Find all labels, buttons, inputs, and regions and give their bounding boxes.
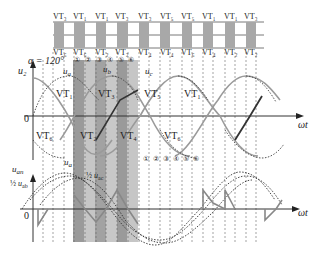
gating-strip <box>53 22 264 48</box>
half-uab-label: ½ uab <box>10 179 28 189</box>
svg-text:VT₃: VT₃ <box>53 12 67 21</box>
svg-text:④: ④ <box>173 155 179 163</box>
svg-text:③: ③ <box>163 155 169 163</box>
conduction-label-vt2: VT₂ <box>80 130 97 141</box>
svg-text:⑤: ⑤ <box>183 155 189 163</box>
svg-text:VT₃: VT₃ <box>115 12 129 21</box>
upper-x-label: ωt <box>298 119 308 130</box>
interval-markers-bottom: ① ② ③ ④ ⑤ ⑥ <box>143 155 199 163</box>
svg-text:⑥: ⑥ <box>128 56 134 64</box>
svg-text:VT₆: VT₆ <box>73 48 87 57</box>
waveform-diagram: α = 120° u₂ 0 ωt ua ub uc VT₁ VT₃ VT₅ VT… <box>0 0 321 259</box>
svg-text:VT₆: VT₆ <box>53 48 67 57</box>
svg-text:①: ① <box>74 56 80 64</box>
svg-text:VT₂: VT₂ <box>224 48 238 57</box>
conduction-label-vt6: VT₆ <box>36 130 53 141</box>
gating-strip-lower-labels: VT₆ VT₆ VT₂ VT₂ VT₄ VT₄ VT₆ VT₄ VT₂ VT₂ <box>53 48 258 57</box>
lower-phase-label-ua: ua <box>64 157 73 169</box>
lower-x-label: ωt <box>298 207 308 218</box>
upper-y-label: u₂ <box>18 65 27 76</box>
svg-text:VT₄: VT₄ <box>202 48 216 57</box>
svg-text:VT₅: VT₅ <box>181 12 195 21</box>
gating-strip-upper-labels: VT₃ VT₁ VT₁ VT₃ VT₃ VT₅ VT₅ VT₁ VT₁ VT₃ <box>53 12 258 21</box>
conduction-label-vt1: VT₁ <box>56 88 73 99</box>
svg-text:①: ① <box>143 155 149 163</box>
svg-text:VT₂: VT₂ <box>115 48 129 57</box>
lower-y-arrow-icon <box>30 174 36 182</box>
conduction-label-vt4: VT₄ <box>120 130 137 141</box>
upper-zero-label: 0 <box>24 113 29 124</box>
svg-text:VT₁: VT₁ <box>73 12 87 21</box>
svg-text:VT₅: VT₅ <box>160 12 174 21</box>
conduction-label-vt3: VT₃ <box>98 88 115 99</box>
svg-text:VT₃: VT₃ <box>138 12 152 21</box>
svg-text:VT₂: VT₂ <box>244 48 258 57</box>
svg-text:VT₆: VT₆ <box>181 48 195 57</box>
svg-text:⑥: ⑥ <box>193 155 199 163</box>
svg-text:VT₁: VT₁ <box>202 12 216 21</box>
svg-text:VT₃: VT₃ <box>244 12 258 21</box>
svg-text:VT₂: VT₂ <box>95 48 109 57</box>
lower-y-label: uan <box>12 164 24 176</box>
svg-text:VT₁: VT₁ <box>95 12 109 21</box>
svg-text:②: ② <box>85 56 91 64</box>
phase-label-uc: uc <box>145 66 154 78</box>
svg-text:VT₁: VT₁ <box>224 12 238 21</box>
svg-text:⑤: ⑤ <box>118 56 124 64</box>
svg-text:②: ② <box>153 155 159 163</box>
lower-zero-label: 0 <box>24 210 29 221</box>
conduction-label-vt6b: VT₆ <box>164 130 181 141</box>
conduction-label-vt1b: VT₁ <box>184 88 201 99</box>
svg-text:VT₄: VT₄ <box>160 48 174 57</box>
svg-text:③: ③ <box>96 56 102 64</box>
conduction-label-vt5: VT₅ <box>144 88 161 99</box>
svg-text:④: ④ <box>107 56 113 64</box>
lower-plot-axes <box>20 180 296 242</box>
svg-text:VT₄: VT₄ <box>138 48 152 57</box>
